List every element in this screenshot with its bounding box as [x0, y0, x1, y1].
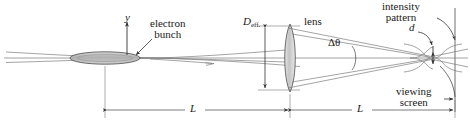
d-eff-subscript: eff. [251, 21, 260, 29]
distance-L-left-label: L [190, 103, 196, 114]
delta-theta-label: Δθ [328, 37, 340, 48]
electron-bunch-ellipse [70, 52, 140, 64]
intensity-pattern-label: intensity pattern [382, 1, 420, 23]
intensity-pattern-leader [437, 18, 455, 40]
d-eff-label: Deff. [243, 16, 260, 27]
electron-bunch-leader [136, 39, 152, 55]
viewing-screen-curve-leader [440, 66, 455, 97]
distance-L-right-label: L [357, 103, 363, 114]
intensity-pattern-label-line2: pattern [382, 12, 420, 23]
d-eff-symbol: D [243, 15, 251, 27]
electron-bunch-label-line2: bunch [150, 29, 185, 40]
viewing-screen-label: viewing screen [396, 86, 431, 108]
d-label: d [409, 22, 415, 33]
y-axis-label: y [125, 12, 130, 23]
d-label-leader [418, 32, 432, 45]
electron-bunch-label: electron bunch [150, 18, 185, 40]
viewing-screen-label-line2: screen [396, 97, 431, 108]
electron-bunch-diffraction-diagram: y electron bunch Deff. lens Δθ d intensi… [0, 0, 470, 127]
lens-label: lens [304, 16, 322, 27]
